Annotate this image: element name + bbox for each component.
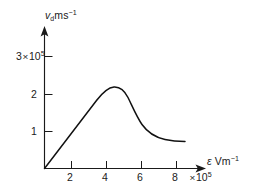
y-tick-3-base: 10 (29, 50, 41, 62)
x-tick-label-2: 2 (67, 172, 73, 183)
figure-container: vdms−1 3×105 2 1 2 4 6 8 ×105 ε Vm−1 (0, 0, 253, 196)
y-tick-3-multiply-sign: × (22, 51, 29, 62)
y-tick-label-1: 1 (31, 126, 37, 137)
x-axis-unit: Vm (215, 155, 231, 167)
y-tick-label-2: 2 (31, 89, 37, 100)
y-tick-3-exponent: 5 (41, 50, 45, 58)
y-axis-subscript: d (50, 15, 54, 22)
x-axis-multiplier-exponent: 5 (208, 171, 212, 179)
y-tick-1-value: 1 (31, 125, 37, 137)
x-tick-label-6: 6 (137, 172, 143, 183)
x-axis-multiplier-base: 10 (196, 171, 208, 183)
y-axis-unit-exponent: −1 (69, 9, 77, 17)
x-axis-multiply-sign: × (189, 172, 196, 183)
x-axis-title: ε Vm−1 (207, 156, 239, 167)
x-tick-label-4: 4 (102, 172, 108, 183)
y-tick-label-3: 3×105 (16, 51, 45, 62)
y-axis-title: vdms−1 (45, 10, 77, 21)
x-axis-multiplier: ×105 (189, 172, 212, 183)
y-axis-unit: ms (54, 9, 68, 21)
x-tick-label-8: 8 (172, 172, 178, 183)
x-axis-variable: ε (207, 155, 212, 167)
drift-velocity-curve (45, 87, 186, 169)
y-tick-2-value: 2 (31, 88, 37, 100)
x-axis-unit-exponent: −1 (231, 155, 239, 163)
